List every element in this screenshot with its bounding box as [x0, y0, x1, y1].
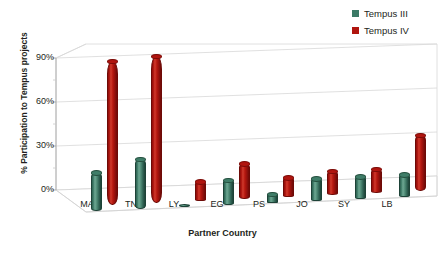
bar-lb-series-1 [399, 175, 410, 197]
bar-top-cap [311, 176, 322, 181]
bar-ma-series-2 [107, 61, 118, 205]
bar-top-cap [267, 192, 278, 197]
bar-eg-series-2 [239, 164, 250, 199]
bar-sy-series-2 [371, 170, 382, 194]
bar-ps-series-1 [267, 194, 278, 203]
bar-sy-series-1 [355, 177, 366, 199]
bar-body [135, 159, 146, 209]
plot-area: 0% 30% 60% 90% MA TN LY EG PS JO SY LB [0, 0, 445, 253]
bar-body [151, 56, 162, 203]
bar-top-cap [151, 54, 162, 59]
bar-top-cap [355, 174, 366, 179]
bar-top-cap [195, 179, 206, 184]
bar-body [91, 173, 102, 211]
bar-body [399, 175, 410, 197]
bar-body [371, 170, 382, 194]
bar-body [327, 172, 338, 196]
bar-ly-series-2 [195, 182, 206, 201]
chart-container: Tempus III Tempus IV [0, 0, 445, 253]
bar-body [311, 179, 322, 201]
bar-tn-series-1 [135, 159, 146, 209]
bar-tn-series-2 [151, 56, 162, 203]
bar-top-cap [239, 161, 250, 166]
bar-eg-series-1 [223, 180, 234, 205]
bar-top-cap [91, 170, 102, 175]
bar-top-cap [107, 59, 118, 64]
bar-top-cap [399, 172, 410, 177]
bar-lb-series-2 [415, 135, 426, 191]
bar-body [107, 61, 118, 205]
bar-body [179, 204, 190, 207]
bar-jo-series-1 [311, 179, 322, 201]
bar-top-cap [135, 157, 146, 162]
bar-body [415, 135, 426, 191]
bar-body [355, 177, 366, 199]
bar-ps-series-2 [283, 178, 294, 197]
bar-top-cap [283, 175, 294, 180]
bar-top-cap [223, 178, 234, 183]
y-axis-title: % Participation to Tempus projects [19, 13, 29, 193]
bar-ma-series-1 [91, 173, 102, 211]
bar-body [195, 182, 206, 201]
bar-body [223, 180, 234, 205]
x-axis-title: Partner Country [0, 228, 445, 238]
bar-body [239, 164, 250, 199]
bar-series-group [0, 0, 445, 253]
bar-body [283, 178, 294, 197]
bar-jo-series-2 [327, 172, 338, 196]
bar-ly-series-1 [179, 204, 190, 207]
bar-top-cap [415, 133, 426, 138]
